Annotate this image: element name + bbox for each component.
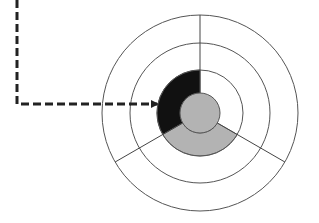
concentric-diagram <box>0 0 319 223</box>
core-disk <box>180 93 220 133</box>
